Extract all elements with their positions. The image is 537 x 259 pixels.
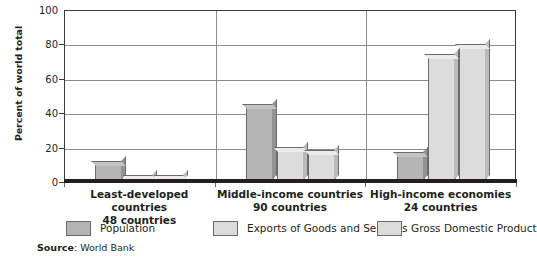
bar-population <box>246 107 274 181</box>
plot-inner <box>65 11 515 181</box>
group-separator <box>216 11 217 181</box>
group-label-line1: Middle-income countries <box>215 188 366 201</box>
chart-legend: PopulationExports of Goods and ServicesG… <box>0 219 527 239</box>
bar-exports-of-goods-and-services <box>277 150 305 181</box>
bar-gross-domestic-product <box>308 153 336 181</box>
group-label-line2: 24 countries <box>365 201 516 214</box>
bar-top-face <box>304 150 339 155</box>
plot-area <box>64 10 516 182</box>
y-tick-label: 80 <box>18 39 58 50</box>
group-label-3: High-income economies24 countries <box>365 188 516 214</box>
legend-item-3[interactable]: Gross Domestic Product <box>377 219 537 237</box>
bar-top-face <box>455 44 490 49</box>
group-label-line2: 90 countries <box>215 201 366 214</box>
legend-swatch-icon <box>377 221 402 236</box>
gridline <box>65 45 515 46</box>
x-tick-mark <box>516 183 517 187</box>
y-tick-label: 20 <box>18 142 58 153</box>
source-value: World Bank <box>80 242 134 253</box>
bar-top-face <box>393 152 428 157</box>
bar-gross-domestic-product <box>459 47 487 181</box>
source-label: Source <box>37 242 74 253</box>
bar-top-face <box>424 54 459 59</box>
group-separator <box>366 11 367 181</box>
bar-side-face <box>485 39 490 180</box>
legend-label: Gross Domestic Product <box>411 222 537 234</box>
group-label-2: Middle-income countries90 countries <box>215 188 366 214</box>
bar-top-face <box>242 104 277 109</box>
y-tick-label: 60 <box>18 73 58 84</box>
source-note: Source: World Bank <box>37 242 134 253</box>
bar-top-face <box>91 161 126 166</box>
group-label-line1: Least-developed countries <box>64 188 215 214</box>
group-label-line1: High-income economies <box>365 188 516 201</box>
legend-item-1[interactable]: Population <box>66 219 155 237</box>
x-tick-mark <box>64 183 65 187</box>
bar-population <box>397 155 425 181</box>
bar-exports-of-goods-and-services <box>428 57 456 181</box>
x-tick-mark <box>365 183 366 187</box>
legend-swatch-icon <box>66 221 91 236</box>
x-tick-mark <box>215 183 216 187</box>
legend-label: Population <box>100 222 155 234</box>
legend-swatch-icon <box>213 221 238 236</box>
y-tick-label: 100 <box>18 5 58 16</box>
x-axis-baseline <box>64 179 517 183</box>
y-tick-label: 0 <box>18 177 58 188</box>
chart-title <box>0 0 527 2</box>
y-tick-label: 40 <box>18 108 58 119</box>
